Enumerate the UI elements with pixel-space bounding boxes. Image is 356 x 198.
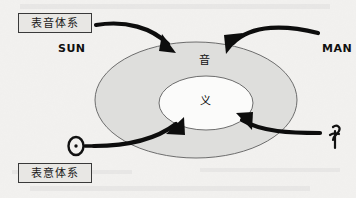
diagram-canvas: 表音体系 表意体系 SUN MAN 音 义 — [0, 0, 356, 198]
label-phonographic-system-text: 表音体系 — [31, 18, 79, 29]
label-phonographic-system: 表音体系 — [18, 13, 92, 33]
label-man-word: MAN — [322, 42, 352, 55]
label-sun-word: SUN — [58, 42, 86, 55]
label-ideographic-system: 表意体系 — [18, 163, 92, 183]
label-ideographic-system-text: 表意体系 — [31, 168, 79, 179]
char-meaning-yi: 义 — [200, 96, 211, 107]
char-sound-yin: 音 — [199, 55, 210, 66]
